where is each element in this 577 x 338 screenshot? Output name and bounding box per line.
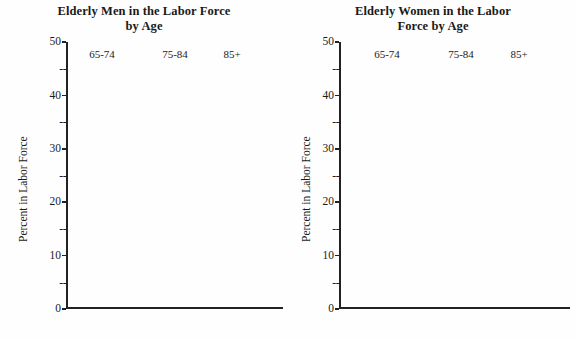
tick-mark xyxy=(62,41,66,43)
y-axis-label: Percent in Labor Force xyxy=(17,136,29,242)
chart-title-line2: by Age xyxy=(0,19,288,34)
chart-title-line1: Elderly Men in the Labor Force xyxy=(57,4,230,18)
tick-mark xyxy=(62,201,66,203)
tick-mark xyxy=(335,41,339,43)
tick-mark xyxy=(62,308,66,310)
tick-mark xyxy=(335,308,339,310)
plot-area-elderly-women: 50 -- 40 -- 30 -- 20 -- 10 -- 0 65-74 75… xyxy=(339,42,570,309)
x-tick-label-65-74: 65-74 xyxy=(89,48,115,327)
x-tick-label-65-74: 65-74 xyxy=(374,48,400,327)
worksheet-page: Elderly Men in the Labor Force by Age Pe… xyxy=(0,0,577,338)
chart-panel-elderly-men: Elderly Men in the Labor Force by Age Pe… xyxy=(0,0,288,338)
y-axis-label: Percent in Labor Force xyxy=(300,136,312,242)
chart-title-elderly-women: Elderly Women in the Labor Force by Age xyxy=(289,4,577,34)
chart-title-line2: Force by Age xyxy=(289,19,577,34)
tick-mark xyxy=(62,148,66,150)
chart-title-line1: Elderly Women in the Labor xyxy=(355,4,511,18)
plot-area-elderly-men: 50 -- 40 -- 30 -- 20 -- 10 -- 0 65-74 75… xyxy=(66,42,283,309)
chart-panel-elderly-women: Elderly Women in the Labor Force by Age … xyxy=(289,0,577,338)
tick-mark xyxy=(335,148,339,150)
tick-mark xyxy=(335,95,339,97)
tick-mark xyxy=(62,95,66,97)
tick-mark xyxy=(335,201,339,203)
tick-mark xyxy=(62,255,66,257)
tick-mark xyxy=(335,255,339,257)
chart-title-elderly-men: Elderly Men in the Labor Force by Age xyxy=(0,4,288,34)
x-tick-label-75-84: 75-84 xyxy=(162,48,188,327)
x-tick-label-85-plus: 85+ xyxy=(510,48,527,327)
x-tick-label-85-plus: 85+ xyxy=(223,48,240,327)
x-tick-label-75-84: 75-84 xyxy=(448,48,474,327)
